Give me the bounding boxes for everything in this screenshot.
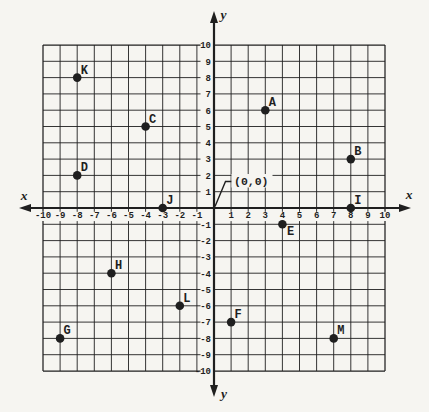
x-tick-label: 10 (380, 211, 391, 221)
y-tick-label: 10 (200, 41, 211, 51)
y-tick-label: 7 (206, 90, 211, 100)
point-label-M: M (337, 324, 344, 338)
point-label-A: A (269, 96, 277, 110)
y-tick-label: -8 (200, 335, 211, 345)
y-tick-label: 8 (206, 74, 211, 84)
x-tick-label: -4 (140, 211, 151, 221)
x-tick-label: 9 (365, 211, 370, 221)
y-tick-label: -1 (200, 221, 211, 231)
x-tick-label: -7 (89, 211, 100, 221)
origin-callout-line (215, 182, 232, 207)
point-label-F: F (235, 308, 242, 322)
x-tick-label: 6 (314, 211, 319, 221)
y-tick-label: -2 (200, 237, 211, 247)
x-tick-label: 1 (228, 211, 234, 221)
y-tick-label: -5 (200, 286, 211, 296)
y-tick-label: 4 (206, 139, 212, 149)
point-label-E: E (287, 225, 294, 239)
y-tick-label: 3 (206, 155, 211, 165)
x-tick-label: -1 (191, 211, 202, 221)
origin-label: (0,0) (234, 175, 269, 188)
point-label-G: G (64, 324, 71, 338)
y-axis-label-bottom: y (219, 386, 228, 401)
x-axis-arrow-left (19, 204, 31, 212)
x-tick-label: -6 (106, 211, 117, 221)
y-tick-label: 1 (206, 188, 212, 198)
point-label-L: L (183, 292, 190, 306)
y-tick-label: -7 (200, 318, 211, 328)
y-tick-label: 5 (206, 123, 211, 133)
x-tick-label: 2 (245, 211, 250, 221)
x-tick-label: 8 (348, 211, 353, 221)
x-tick-label: -9 (55, 211, 66, 221)
x-axis-label-left: x (20, 188, 28, 203)
x-tick-label: 3 (263, 211, 268, 221)
point-label-C: C (149, 113, 156, 127)
y-tick-label: -3 (200, 253, 211, 263)
x-tick-label: -5 (123, 211, 134, 221)
point-label-J: J (166, 194, 173, 208)
y-tick-label: 9 (206, 58, 211, 68)
point-label-B: B (354, 145, 361, 159)
figure-canvas: xxyy10987654321-1-2-3-4-5-6-7-8-9-10-10-… (0, 0, 429, 412)
y-tick-label: 2 (206, 172, 211, 182)
y-tick-label: -10 (195, 367, 211, 377)
y-tick-label: -6 (200, 302, 211, 312)
y-tick-label: -4 (200, 270, 211, 280)
y-tick-label: -9 (200, 351, 211, 361)
y-axis-arrow-bottom (210, 385, 218, 397)
x-tick-label: -2 (174, 211, 185, 221)
x-tick-label: 5 (297, 211, 302, 221)
x-axis-label-right: x (405, 187, 413, 202)
y-axis-arrow-top (210, 11, 218, 23)
point-E (278, 220, 287, 229)
x-tick-label: -3 (157, 211, 168, 221)
point-label-K: K (81, 64, 89, 78)
x-axis-arrow-right (399, 204, 411, 212)
y-tick-label: 6 (206, 107, 211, 117)
coordinate-plane: xxyy10987654321-1-2-3-4-5-6-7-8-9-10-10-… (0, 0, 429, 412)
x-tick-label: -10 (35, 211, 51, 221)
point-label-I: I (354, 194, 361, 208)
x-tick-label: 7 (331, 211, 336, 221)
point-label-H: H (115, 259, 122, 273)
x-tick-label: -8 (72, 211, 83, 221)
y-axis-label-top: y (219, 7, 228, 22)
point-label-D: D (81, 161, 88, 175)
x-tick-label: 4 (280, 211, 286, 221)
